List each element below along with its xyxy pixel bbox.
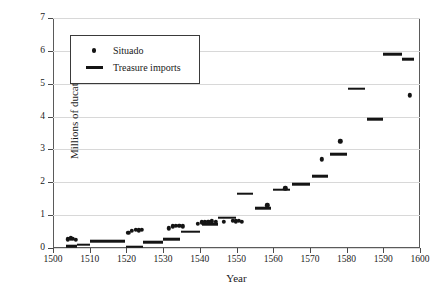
y-tick-label: 2 [40, 178, 45, 188]
gridline [53, 117, 420, 118]
y-tick [48, 182, 53, 183]
dot-marker-icon [81, 48, 107, 52]
x-tick [273, 248, 274, 253]
legend-label-treasure-imports: Treasure imports [107, 62, 181, 73]
x-tick [90, 248, 91, 253]
x-tick [237, 248, 238, 253]
treasure-import-bar [143, 241, 163, 244]
x-tick-label: 1510 [80, 255, 99, 265]
gridline [53, 182, 420, 183]
situado-point [140, 227, 144, 231]
x-tick [53, 248, 54, 253]
x-tick [126, 248, 127, 253]
x-tick-label: 1540 [190, 255, 209, 265]
x-tick [420, 248, 421, 253]
x-tick-label: 1520 [117, 255, 136, 265]
y-tick [48, 84, 53, 85]
x-tick [383, 248, 384, 253]
situado-point [338, 139, 342, 143]
x-tick [347, 248, 348, 253]
treasure-import-bar [312, 175, 329, 178]
treasure-import-bar [402, 58, 415, 61]
plot-area: 01234567 1500151015201530154015501560157… [53, 18, 420, 248]
treasure-import-bar [90, 240, 108, 243]
treasure-import-bar [237, 192, 254, 195]
line-marker-icon [81, 66, 107, 69]
y-tick-label: 4 [40, 112, 45, 122]
x-tick-label: 1550 [227, 255, 246, 265]
y-tick-label: 3 [40, 145, 45, 155]
x-tick-label: 1580 [337, 255, 356, 265]
y-tick [48, 149, 53, 150]
treasure-import-bar [383, 53, 401, 56]
legend-label-situado: Situado [107, 45, 144, 56]
treasure-import-bar [181, 230, 199, 233]
y-tick-label: 5 [40, 79, 45, 89]
x-tick-label: 1590 [374, 255, 393, 265]
y-tick-label: 6 [40, 46, 45, 56]
legend-item-treasure-imports: Treasure imports [71, 59, 199, 76]
x-tick [163, 248, 164, 253]
x-tick-label: 1570 [300, 255, 319, 265]
situado-point [240, 220, 244, 224]
treasure-import-bar [163, 238, 180, 241]
x-tick-label: 1500 [44, 255, 63, 265]
treasure-import-bar [330, 153, 347, 156]
treasure-import-bar [66, 245, 77, 248]
treasure-import-bar [273, 188, 290, 191]
gridline [53, 18, 420, 19]
x-tick-label: 1600 [411, 255, 430, 265]
treasure-import-bar [108, 240, 125, 243]
chart-legend: Situado Treasure imports [70, 35, 200, 84]
y-tick [48, 215, 53, 216]
y-tick [48, 18, 53, 19]
situado-point [221, 220, 225, 224]
y-tick [48, 51, 53, 52]
treasure-import-bar [367, 118, 384, 121]
x-tick [200, 248, 201, 253]
x-axis-title: Year [53, 272, 420, 284]
treasure-import-bar [255, 207, 272, 210]
chart-container: 01234567 1500151015201530154015501560157… [0, 0, 447, 292]
treasure-import-bar [292, 183, 310, 186]
situado-point [180, 224, 184, 228]
legend-item-situado: Situado [71, 42, 199, 59]
x-tick-label: 1560 [264, 255, 283, 265]
treasure-import-bar [348, 87, 365, 90]
situado-point [319, 157, 323, 161]
y-tick-label: 7 [40, 13, 45, 23]
y-tick-label: 1 [40, 210, 45, 220]
situado-point [408, 93, 412, 97]
treasure-import-bar [126, 245, 143, 248]
x-tick [310, 248, 311, 253]
treasure-import-bar [77, 243, 90, 246]
y-tick [48, 117, 53, 118]
y-tick-label: 0 [40, 243, 45, 253]
gridline [53, 149, 420, 150]
gridline [53, 215, 420, 216]
situado-point [74, 238, 78, 242]
x-tick-label: 1530 [154, 255, 173, 265]
